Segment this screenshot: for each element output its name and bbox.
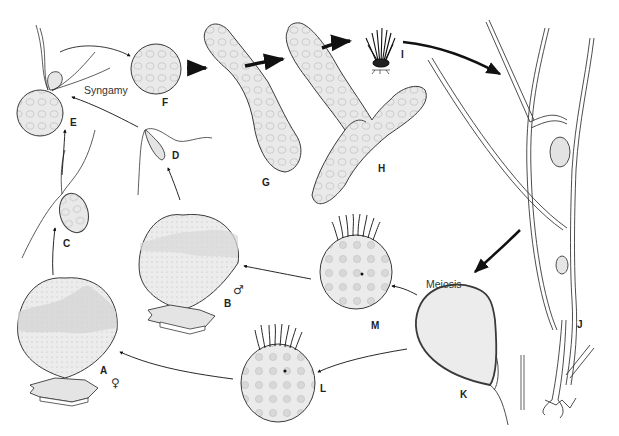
- arrow-b-to-d: [168, 168, 180, 200]
- label-a: A: [100, 366, 107, 376]
- stage-a-female-gametangium: [18, 278, 118, 406]
- stage-f-zygote: [131, 44, 181, 94]
- stage-m-zoospore: [320, 214, 392, 309]
- stage-k-sporangium: [416, 285, 524, 425]
- label-l: L: [320, 384, 326, 394]
- label-e: E: [70, 118, 77, 128]
- male-symbol: ♂: [233, 284, 244, 296]
- arrow-h-to-i: [322, 41, 350, 48]
- female-symbol: ♀: [111, 377, 120, 389]
- arrow-l-to-a: [120, 352, 233, 379]
- label-d: D: [172, 151, 179, 161]
- arrow-k-to-l: [318, 349, 407, 372]
- label-f: F: [162, 98, 168, 108]
- arrow-d-to-e: [72, 97, 138, 127]
- stage-h-branching-sporophyte: [286, 23, 426, 204]
- diagram-drawing: [0, 0, 619, 436]
- syngamy-label: Syngamy: [84, 85, 128, 96]
- arrow-m-to-b: [244, 266, 311, 279]
- label-g: G: [262, 178, 270, 188]
- label-c: C: [63, 239, 70, 249]
- stage-i-young-sporophyte-tuft: [366, 28, 395, 74]
- stage-g-germinating-zygote: [204, 24, 301, 172]
- stage-b-male-gametangium: [139, 214, 239, 334]
- label-b: B: [224, 299, 231, 309]
- arrow-k-to-m: [392, 286, 417, 295]
- arrow-j-to-k: [475, 230, 520, 272]
- label-k: K: [460, 390, 467, 400]
- meiosis-label: Meiosis: [426, 279, 462, 290]
- life-cycle-diagram: A ♀ B ♂ C D E F G H I J K L M Syngamy Me…: [0, 0, 619, 436]
- stage-c-female-gamete: [22, 130, 95, 258]
- stage-l-zoospore: [241, 324, 315, 422]
- arrow-a-to-c: [53, 228, 55, 275]
- label-i: I: [401, 50, 404, 60]
- arrow-i-to-j: [403, 42, 500, 74]
- label-h: H: [378, 164, 385, 174]
- label-j: J: [577, 320, 583, 330]
- label-m: M: [371, 321, 379, 331]
